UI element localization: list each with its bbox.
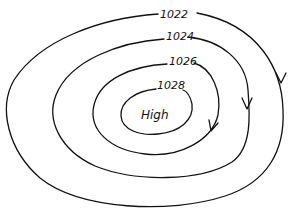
isobar-diagram: 1022 1024 1026 1028 High [0,0,290,215]
isobar-1024: 1024 [53,30,252,178]
isobar-label-1024: 1024 [166,30,194,43]
high-pressure-center-label: High [141,108,169,122]
isobar-label-1026: 1026 [169,55,197,68]
isobar-label-1022: 1022 [160,8,188,21]
isobar-1026: 1026 [93,55,219,155]
isobar-label-1028: 1028 [157,79,185,92]
isobar-1028: 1028 [121,79,192,134]
arrow-1024-icon [242,98,252,109]
